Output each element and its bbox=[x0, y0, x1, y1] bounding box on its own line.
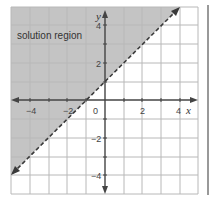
y-tick-label: 4 bbox=[96, 21, 101, 31]
x-axis-right-arrow-icon bbox=[190, 97, 198, 103]
x-tick-label: 4 bbox=[176, 106, 181, 116]
x-tick-label: −4 bbox=[26, 106, 36, 116]
solution-region-label: solution region bbox=[17, 30, 82, 41]
graph: solution region y x −4 −2 0 2 4 4 2 −2 −… bbox=[0, 0, 211, 207]
y-tick-label: 2 bbox=[96, 59, 101, 69]
y-tick-label: −4 bbox=[91, 171, 101, 181]
y-axis-bottom-arrow-icon bbox=[102, 186, 108, 194]
origin-label: 0 bbox=[93, 106, 98, 116]
x-axis-label: x bbox=[185, 104, 191, 116]
x-tick-label: −2 bbox=[63, 106, 73, 116]
x-tick-label: 2 bbox=[140, 106, 145, 116]
y-tick-label: −2 bbox=[91, 134, 101, 144]
